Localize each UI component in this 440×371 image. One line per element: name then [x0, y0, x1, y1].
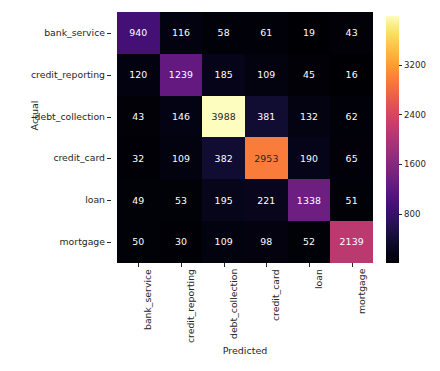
heatmap-cell: 109 — [160, 137, 203, 179]
x-axis-tick-labels: bank_servicecredit_reportingdebt_collect… — [117, 263, 373, 348]
heatmap-cell: 43 — [330, 12, 373, 54]
x-tick-label: credit_card — [270, 269, 281, 321]
cell-value-label: 109 — [215, 237, 233, 246]
cell-value-label: 381 — [257, 112, 275, 121]
colorbar-tick-mark — [399, 65, 402, 66]
cell-value-label: 62 — [346, 112, 358, 121]
cell-value-label: 2953 — [254, 154, 278, 163]
cell-value-label: 120 — [129, 70, 147, 79]
heatmap-cell: 381 — [245, 96, 288, 138]
heatmap-cell: 1338 — [288, 179, 331, 221]
y-tick-mark — [107, 200, 111, 201]
cell-value-label: 109 — [172, 154, 190, 163]
cell-value-label: 32 — [132, 154, 144, 163]
heatmap-cell: 62 — [330, 96, 373, 138]
heatmap-cell: 109 — [202, 221, 245, 263]
y-tick-label-credit-reporting: credit_reporting — [31, 69, 105, 81]
cell-value-label: 52 — [303, 237, 315, 246]
cell-value-label: 185 — [215, 70, 233, 79]
heatmap-cell: 98 — [245, 221, 288, 263]
colorbar-tick-mark — [399, 164, 402, 165]
cell-value-label: 50 — [132, 237, 144, 246]
x-tick-label: bank_service — [142, 269, 153, 330]
cell-value-label: 61 — [260, 28, 272, 37]
heatmap-cell: 30 — [160, 221, 203, 263]
colorbar-tick-mark — [399, 214, 402, 215]
x-tick-bank-service: bank_service — [117, 263, 160, 348]
cell-value-label: 49 — [132, 196, 144, 205]
cell-value-label: 116 — [172, 28, 190, 37]
heatmap-cell: 120 — [117, 54, 160, 96]
y-tick-mark — [107, 158, 111, 159]
colorbar-tick-label: 2400 — [404, 110, 426, 120]
cell-value-label: 3988 — [212, 112, 236, 121]
x-tick-mark — [224, 263, 225, 267]
heatmap-cell: 940 — [117, 12, 160, 54]
cell-value-label: 146 — [172, 112, 190, 121]
x-tick-mortgage: mortgage — [330, 263, 373, 348]
y-tick-mark — [107, 75, 111, 76]
heatmap-cell: 49 — [117, 179, 160, 221]
cell-value-label: 132 — [300, 112, 318, 121]
cell-value-label: 43 — [132, 112, 144, 121]
colorbar-tick-mark — [399, 114, 402, 115]
cell-value-label: 2139 — [340, 237, 364, 246]
heatmap-cell: 53 — [160, 179, 203, 221]
cell-value-label: 195 — [215, 196, 233, 205]
heatmap-cell: 2139 — [330, 221, 373, 263]
heatmap-cell: 51 — [330, 179, 373, 221]
x-tick-label: loan — [313, 269, 324, 289]
heatmap-cell: 116 — [160, 12, 203, 54]
y-tick-mark — [107, 33, 111, 34]
cell-value-label: 58 — [218, 28, 230, 37]
x-tick-mark — [352, 263, 353, 267]
x-axis-label: Predicted — [117, 345, 373, 356]
heatmap-cell: 109 — [245, 54, 288, 96]
colorbar: 800160024003200 — [386, 16, 399, 263]
heatmap-cell: 1239 — [160, 54, 203, 96]
heatmap-cell: 195 — [202, 179, 245, 221]
x-tick-mark — [138, 263, 139, 267]
colorbar-gradient — [386, 16, 399, 263]
cell-value-label: 53 — [175, 196, 187, 205]
cell-value-label: 1338 — [297, 196, 321, 205]
heatmap-cell: 132 — [288, 96, 331, 138]
heatmap-cell: 50 — [117, 221, 160, 263]
heatmap-cell: 32 — [117, 137, 160, 179]
heatmap-cell: 65 — [330, 137, 373, 179]
y-tick-mark — [107, 242, 111, 243]
y-tick-mark — [107, 117, 111, 118]
x-tick-credit-reporting: credit_reporting — [160, 263, 203, 348]
cell-value-label: 190 — [300, 154, 318, 163]
cell-value-label: 109 — [257, 70, 275, 79]
heatmap-cell: 146 — [160, 96, 203, 138]
y-axis-tick-labels: bank_servicecredit_reportingdebt_collect… — [18, 12, 111, 263]
x-tick-credit-card: credit_card — [245, 263, 288, 348]
x-tick-label: mortgage — [356, 269, 367, 314]
cell-value-label: 19 — [303, 28, 315, 37]
heatmap-cell: 58 — [202, 12, 245, 54]
y-tick-label-debt-collection: debt_collection — [35, 111, 105, 123]
heatmap-cell: 61 — [245, 12, 288, 54]
cell-value-label: 1239 — [169, 70, 193, 79]
x-tick-mark — [309, 263, 310, 267]
heatmap-cell: 45 — [288, 54, 331, 96]
heatmap-cell: 382 — [202, 137, 245, 179]
cell-value-label: 43 — [346, 28, 358, 37]
heatmap-cell: 3988 — [202, 96, 245, 138]
cell-value-label: 221 — [257, 196, 275, 205]
heatmap-cell: 52 — [288, 221, 331, 263]
cell-value-label: 51 — [346, 196, 358, 205]
cell-value-label: 98 — [260, 237, 272, 246]
cell-value-label: 30 — [175, 237, 187, 246]
x-tick-label: debt_collection — [228, 269, 239, 339]
heatmap-cell: 2953 — [245, 137, 288, 179]
confusion-matrix-figure: Actual bank_servicecredit_reportingdebt_… — [0, 0, 440, 371]
x-tick-loan: loan — [288, 263, 331, 348]
colorbar-tick-label: 800 — [404, 209, 420, 219]
heatmap-cell: 16 — [330, 54, 373, 96]
heatmap-grid: 9401165861194312012391851094516431463988… — [117, 12, 373, 263]
x-tick-mark — [181, 263, 182, 267]
heatmap-cell: 19 — [288, 12, 331, 54]
y-tick-label-loan: loan — [85, 194, 105, 206]
